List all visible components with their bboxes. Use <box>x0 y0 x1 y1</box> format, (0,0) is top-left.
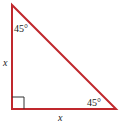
bottom-side-label: x <box>57 112 63 123</box>
right-angle-marker <box>12 97 24 109</box>
triangle-diagram: 45° x 45° x <box>0 0 121 126</box>
bottom-angle-label: 45° <box>87 97 101 108</box>
left-side-label: x <box>2 57 8 68</box>
triangle-outline <box>12 5 116 109</box>
top-angle-label: 45° <box>14 23 28 34</box>
